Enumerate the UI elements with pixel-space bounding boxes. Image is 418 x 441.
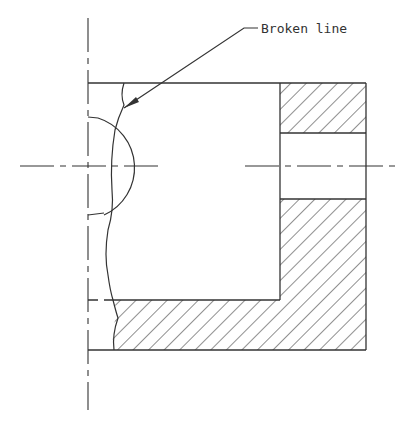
arc-tick-top: [88, 117, 98, 118]
annotation-label: Broken line: [261, 21, 347, 36]
leader-line: [124, 28, 258, 108]
technical-drawing: Broken line: [0, 0, 418, 441]
hatched-section: [113, 83, 366, 350]
arc-tick-bottom: [88, 213, 104, 215]
